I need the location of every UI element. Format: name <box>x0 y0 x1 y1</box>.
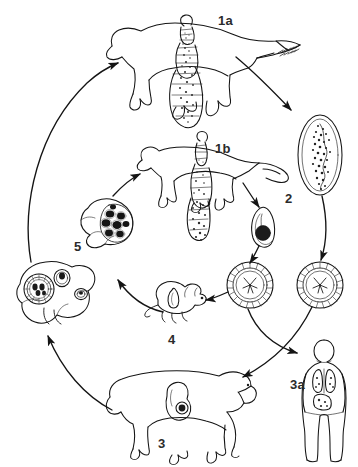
sheep-intermediate-host-drawing <box>106 371 256 465</box>
fox-definitive-host-drawing <box>137 147 288 213</box>
arrow-proglottid-to-egg-right-path <box>321 196 326 260</box>
arrow-egg-right-to-sheep-path <box>243 307 312 377</box>
label-4: 4 <box>168 333 175 346</box>
arrow-fox-to-proglottid-path <box>243 183 259 207</box>
arrow-egg-left-to-rodent-path <box>206 292 228 300</box>
egg-left-drawing <box>227 262 273 308</box>
diagram-canvas <box>0 0 358 467</box>
label-5: 5 <box>74 240 81 253</box>
small-proglottid-drawing <box>252 207 275 247</box>
alveolar-cyst-liver-drawing <box>81 199 133 248</box>
label-2: 2 <box>285 192 292 205</box>
human-accidental-host-drawing <box>302 340 346 462</box>
arrow-liver-to-dog-path <box>28 63 118 262</box>
gravid-proglottid-drawing <box>298 115 342 195</box>
life-cycle-diagram: 1a 1b 2 3 3a 4 5 <box>0 0 358 467</box>
label-1b: 1b <box>215 142 231 155</box>
arrow-alveolar-cyst-to-fox-path <box>113 174 140 196</box>
arrow-sheep-to-hydatid-liver-path <box>48 336 112 410</box>
label-1a: 1a <box>218 14 233 27</box>
egg-right-drawing <box>297 262 343 308</box>
arrow-dog-to-proglottid-path <box>236 57 291 110</box>
arrow-small-proglottid-to-egg-left-path <box>250 246 259 263</box>
hydatid-cyst-liver-drawing <box>17 262 95 324</box>
label-3: 3 <box>158 437 165 450</box>
adult-tapeworm-dog-drawing <box>170 15 203 128</box>
rodent-intermediate-host-drawing <box>145 282 206 323</box>
dog-definitive-host-drawing <box>106 23 300 119</box>
label-3a: 3a <box>290 378 305 391</box>
arrow-egg-left-to-human-path <box>248 309 297 353</box>
